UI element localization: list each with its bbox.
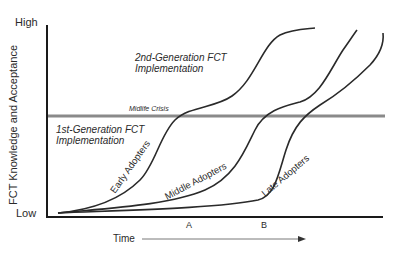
middle-adopters-label: Middle Adopters: [163, 160, 229, 202]
early-adopters-label: Early Adopters: [108, 138, 153, 195]
second-generation-line1: 2nd-Generation FCT: [135, 52, 227, 63]
y-axis-low-label: Low: [16, 207, 36, 219]
y-axis-high-label: High: [15, 16, 38, 28]
y-axis-title: FCT Knowledge and Acceptance: [7, 45, 19, 205]
x-marker-a: A: [186, 220, 192, 230]
first-generation-line2: Implementation: [56, 135, 144, 146]
x-marker-b: B: [261, 220, 267, 230]
late-adopters-label: Late Adopters: [259, 152, 311, 198]
first-generation-label: 1st-Generation FCT Implementation: [56, 124, 144, 146]
x-axis-title: Time: [113, 233, 135, 244]
time-arrow-head-icon: [298, 236, 306, 242]
second-generation-line2: Implementation: [135, 63, 227, 74]
midlife-crisis-label: Midlife Crisis: [129, 105, 169, 112]
second-generation-label: 2nd-Generation FCT Implementation: [135, 52, 227, 74]
first-generation-line1: 1st-Generation FCT: [56, 124, 144, 135]
